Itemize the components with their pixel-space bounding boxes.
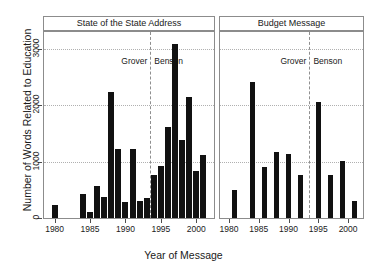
x-tick-mark — [125, 219, 126, 223]
bar — [186, 97, 192, 218]
gridline — [220, 105, 363, 106]
bar — [179, 140, 185, 218]
bar — [232, 190, 237, 218]
panel-state-of-the-state: State of the State Address GroverBenson — [43, 16, 215, 219]
x-tick-mark — [161, 219, 162, 223]
bar — [115, 149, 121, 218]
x-axis-title: Year of Message — [0, 249, 367, 261]
x-tick-label: 1980 — [38, 224, 72, 234]
bar — [172, 44, 178, 218]
bar — [108, 92, 114, 218]
bar — [130, 149, 136, 218]
panel-title-budget-message: Budget Message — [219, 16, 364, 31]
y-tick-label: 2000 — [31, 89, 41, 119]
x-tick-mark — [259, 219, 260, 223]
bar — [101, 197, 107, 218]
x-tick-label: 1990 — [108, 224, 142, 234]
bar — [316, 102, 321, 218]
bar — [158, 166, 164, 218]
bar — [274, 152, 279, 219]
bar — [200, 155, 206, 218]
x-tick-label: 1985 — [73, 224, 107, 234]
bar — [298, 175, 303, 218]
bar — [52, 205, 58, 218]
plot-area-state-of-the-state: GroverBenson — [43, 31, 215, 219]
bar — [80, 194, 86, 218]
x-tick-mark — [348, 219, 349, 223]
bar — [286, 154, 291, 218]
annotation-benson: Benson — [313, 56, 342, 66]
bar — [144, 198, 150, 218]
bar — [193, 171, 199, 218]
x-tick-mark — [55, 219, 56, 223]
x-tick-mark — [90, 219, 91, 223]
y-tick-label: 1000 — [31, 146, 41, 176]
x-tick-mark — [196, 219, 197, 223]
bar — [352, 201, 357, 218]
panel-budget-message: Budget Message GroverBenson — [219, 16, 364, 219]
bar — [87, 212, 93, 218]
annotation-benson: Benson — [154, 56, 183, 66]
panel-title-state-of-the-state: State of the State Address — [43, 16, 215, 31]
x-tick-label: 2000 — [179, 224, 213, 234]
bar — [262, 167, 267, 218]
x-tick-mark — [318, 219, 319, 223]
y-tick-label: 3000 — [31, 33, 41, 63]
figure-root: Number of Words Related to Education Yea… — [0, 0, 367, 268]
bar — [165, 127, 171, 218]
bar — [137, 201, 143, 218]
bar — [250, 82, 255, 218]
x-tick-label: 1995 — [144, 224, 178, 234]
gridline — [220, 49, 363, 50]
x-tick-label: 2000 — [331, 224, 365, 234]
bar — [122, 202, 128, 218]
bar — [328, 175, 333, 218]
annotation-grover: Grover — [280, 56, 306, 66]
x-tick-mark — [229, 219, 230, 223]
bar — [94, 186, 100, 218]
plot-area-budget-message: GroverBenson — [219, 31, 364, 219]
bar — [151, 175, 157, 218]
x-tick-mark — [289, 219, 290, 223]
gridline — [44, 49, 214, 50]
governor-divider-line — [309, 32, 310, 218]
annotation-grover: Grover — [121, 56, 147, 66]
bar — [340, 161, 345, 218]
